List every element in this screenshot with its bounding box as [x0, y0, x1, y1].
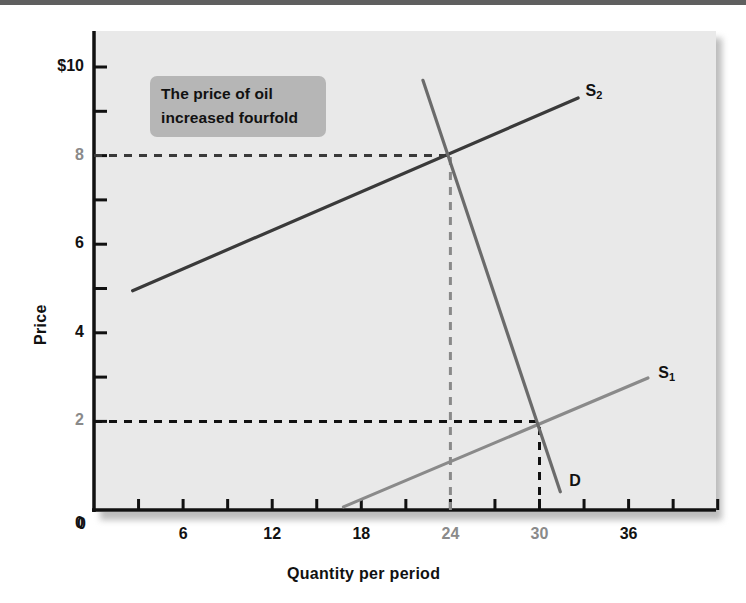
- curve-label-text: S: [658, 364, 669, 381]
- curve-label-text: D: [569, 472, 581, 489]
- curve-label-S2: S2: [586, 82, 603, 100]
- y-tick-label-6: 6: [36, 234, 84, 252]
- x-tick-label-24: 24: [420, 525, 480, 543]
- annotation-line-2: increased fourfold: [161, 106, 315, 130]
- curve-label-subscript: 1: [669, 371, 675, 383]
- y-tick-label-10: $10: [36, 57, 84, 75]
- chart-canvas: [0, 0, 746, 603]
- x-tick-label-12: 12: [242, 525, 302, 543]
- x-tick-label-30: 30: [510, 525, 570, 543]
- y-axis-title: Price: [32, 304, 50, 345]
- curve-label-D: D: [569, 472, 581, 490]
- curves-group: [133, 80, 648, 507]
- curve-label-text: S: [586, 82, 597, 99]
- curve-label-S1: S1: [658, 364, 675, 382]
- x-tick-label-18: 18: [331, 525, 391, 543]
- annotation-line-1: The price of oil: [161, 82, 315, 106]
- curve-D: [423, 80, 560, 492]
- y-tick-label-8: 8: [36, 146, 84, 164]
- guide-lines-group: [94, 156, 540, 510]
- x-axis-title: Quantity per period: [287, 565, 440, 583]
- y-tick-label-0: 0: [36, 514, 84, 532]
- annotation-callout: The price of oil increased fourfold: [150, 76, 326, 137]
- x-tick-label-6: 6: [153, 525, 213, 543]
- curve-label-subscript: 2: [596, 89, 602, 101]
- oil-price-supply-demand-figure: 061218243036$1086420 S2S1D Price Quantit…: [0, 0, 746, 603]
- x-tick-label-36: 36: [599, 525, 659, 543]
- curve-S1: [343, 378, 647, 507]
- y-tick-label-2: 2: [36, 411, 84, 429]
